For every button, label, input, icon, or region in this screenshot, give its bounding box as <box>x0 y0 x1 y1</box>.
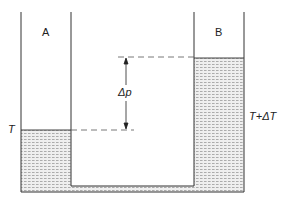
temperature-b-label: T+ΔT <box>249 111 276 122</box>
vessel-b-label: B <box>215 27 222 38</box>
vessel-a-label: A <box>42 27 49 38</box>
liquid <box>21 58 244 192</box>
pressure-difference-label: Δp <box>117 87 133 98</box>
temperature-a-label: T <box>8 124 15 135</box>
